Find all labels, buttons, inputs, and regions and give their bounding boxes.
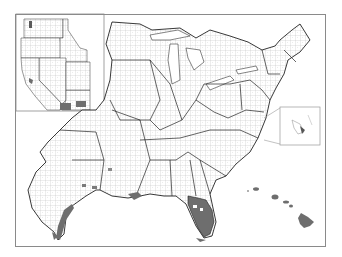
florida-keys	[196, 238, 206, 242]
west-inset	[16, 14, 104, 111]
hawaii[interactable]	[247, 187, 314, 228]
puget-sound-highlight	[29, 21, 32, 28]
arizona-highlight	[76, 101, 86, 107]
socal-highlight	[60, 103, 71, 110]
us-county-map	[0, 0, 342, 257]
dc-inset	[264, 107, 320, 145]
